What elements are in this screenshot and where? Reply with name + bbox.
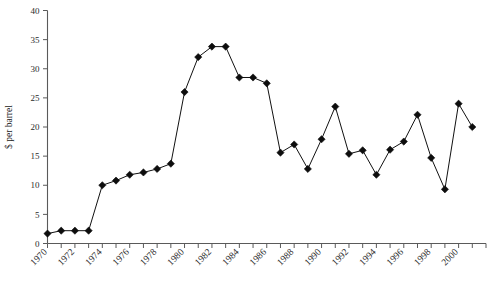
data-point-marker bbox=[304, 165, 311, 172]
series-line bbox=[48, 47, 473, 234]
data-point-marker bbox=[99, 182, 106, 189]
data-point-marker bbox=[58, 227, 65, 234]
data-point-marker bbox=[112, 177, 119, 184]
data-point-marker bbox=[332, 103, 339, 110]
data-point-marker bbox=[140, 169, 147, 176]
data-point-marker bbox=[85, 227, 92, 234]
x-tick-label: 1976 bbox=[111, 247, 132, 268]
data-point-marker bbox=[318, 136, 325, 143]
data-point-marker bbox=[44, 230, 51, 237]
y-tick-label: 15 bbox=[31, 151, 41, 161]
x-tick-label: 1970 bbox=[28, 247, 49, 268]
line-chart: 0510152025303540 19701972197419761978198… bbox=[0, 0, 499, 285]
y-tick-label: 40 bbox=[31, 6, 41, 16]
y-tick-label: 0 bbox=[35, 239, 40, 249]
y-tick-label: 5 bbox=[35, 210, 40, 220]
y-tick-label: 35 bbox=[31, 35, 41, 45]
data-point-marker bbox=[469, 123, 476, 130]
data-point-marker bbox=[249, 74, 256, 81]
data-point-marker bbox=[373, 171, 380, 178]
x-tick-label: 1998 bbox=[412, 247, 433, 268]
x-tick-label: 1988 bbox=[275, 247, 296, 268]
y-tick-label: 25 bbox=[31, 93, 41, 103]
data-point-marker bbox=[71, 227, 78, 234]
data-point-marker bbox=[455, 100, 462, 107]
data-point-marker bbox=[428, 154, 435, 161]
data-point-marker bbox=[236, 74, 243, 81]
data-point-marker bbox=[291, 141, 298, 148]
x-tick-label: 1982 bbox=[193, 247, 214, 268]
data-point-marker bbox=[359, 147, 366, 154]
data-point-marker bbox=[154, 165, 161, 172]
y-axis-title: $ per barrel bbox=[4, 105, 14, 149]
y-axis: 0510152025303540 bbox=[31, 6, 48, 249]
data-point-marker bbox=[345, 150, 352, 157]
y-tick-label: 20 bbox=[31, 122, 41, 132]
data-series bbox=[44, 43, 476, 237]
data-point-marker bbox=[441, 186, 448, 193]
data-point-marker bbox=[167, 160, 174, 167]
x-tick-label: 1990 bbox=[302, 247, 323, 268]
chart-container: 0510152025303540 19701972197419761978198… bbox=[0, 0, 499, 285]
x-tick-label: 1978 bbox=[138, 247, 159, 268]
data-point-marker bbox=[386, 146, 393, 153]
data-point-marker bbox=[414, 111, 421, 118]
data-point-marker bbox=[277, 149, 284, 156]
y-tick-label: 10 bbox=[31, 180, 41, 190]
data-point-marker bbox=[126, 171, 133, 178]
data-point-marker bbox=[222, 43, 229, 50]
axis-labels: $ per barrel bbox=[4, 105, 14, 149]
x-tick-label: 2000 bbox=[440, 247, 461, 268]
data-point-marker bbox=[400, 138, 407, 145]
x-axis: 1970197219741976197819801982198419861988… bbox=[28, 244, 486, 268]
x-tick-label: 1972 bbox=[56, 247, 77, 268]
x-tick-label: 1974 bbox=[83, 247, 104, 268]
data-point-marker bbox=[263, 80, 270, 87]
data-point-marker bbox=[181, 88, 188, 95]
x-tick-label: 1994 bbox=[357, 247, 378, 268]
x-tick-label: 1996 bbox=[385, 247, 406, 268]
x-tick-label: 1984 bbox=[220, 247, 241, 268]
x-tick-label: 1986 bbox=[248, 247, 269, 268]
x-tick-label: 1992 bbox=[330, 247, 351, 268]
x-tick-label: 1980 bbox=[165, 247, 186, 268]
y-tick-label: 30 bbox=[31, 64, 41, 74]
